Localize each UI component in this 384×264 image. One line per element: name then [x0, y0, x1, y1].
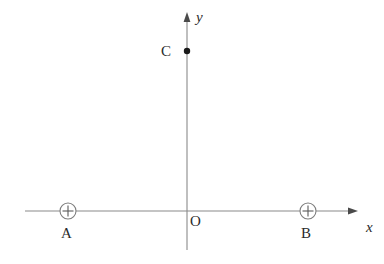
y-axis-label: y [196, 10, 203, 25]
physics-diagram-canvas: y x O A B C [0, 0, 384, 264]
y-axis-arrowhead [184, 12, 191, 22]
x-axis-label: x [366, 220, 373, 235]
x-axis-arrowhead [348, 208, 358, 215]
charge-b-symbol [300, 203, 316, 219]
charge-b-label: B [301, 226, 311, 241]
origin-label: O [190, 214, 201, 229]
charge-a-symbol [60, 203, 76, 219]
charge-a-label: A [61, 226, 72, 241]
point-c-label: C [161, 44, 171, 59]
point-c-dot [184, 48, 190, 54]
